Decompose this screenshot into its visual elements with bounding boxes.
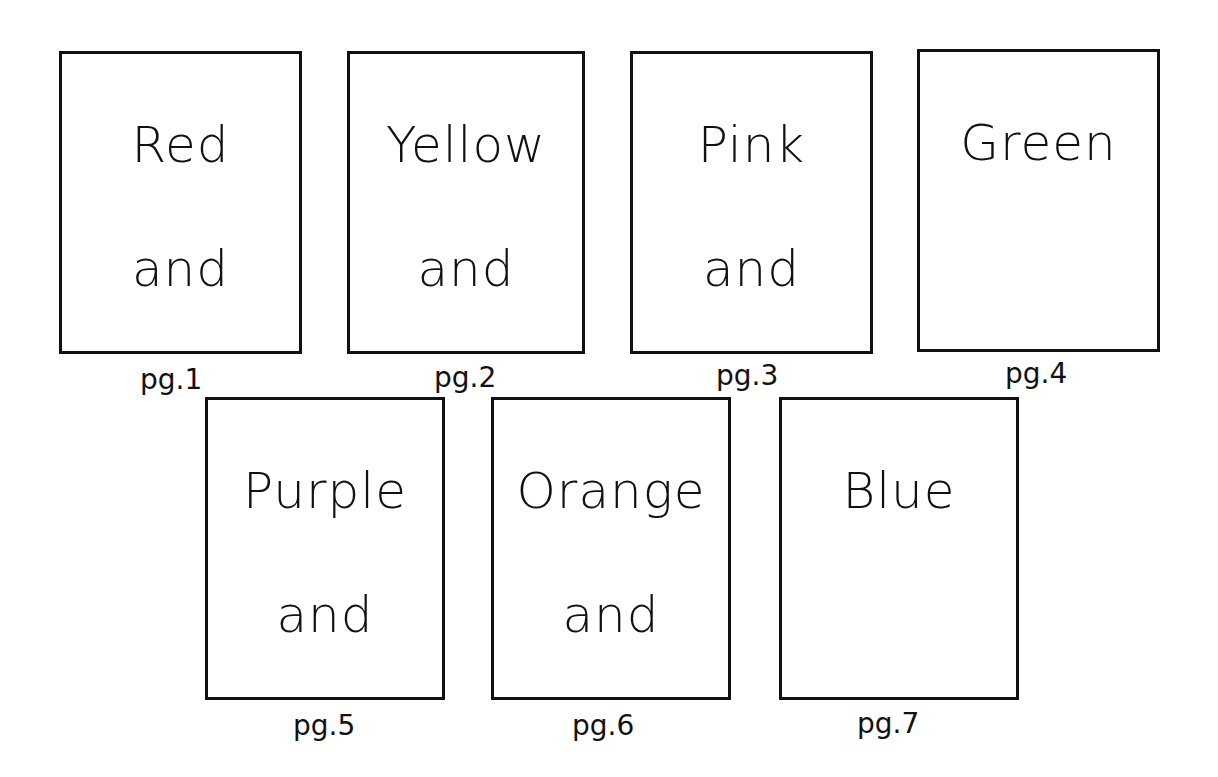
page-word-primary: Orange (494, 466, 728, 516)
page-number-label: pg.2 (434, 364, 496, 392)
page-word-secondary: and (633, 244, 870, 294)
page-word-primary: Red (62, 120, 299, 170)
page-word-primary: Blue (782, 466, 1016, 516)
page-number-label: pg.6 (572, 712, 634, 740)
page-word-primary: Pink (633, 120, 870, 170)
page-card-6: Orange and (491, 397, 731, 700)
page-card-5: Purple and (205, 397, 445, 700)
page-card-1: Red and (59, 51, 302, 354)
page-card-4: Green (917, 49, 1160, 352)
page-card-3: Pink and (630, 51, 873, 354)
page-word-secondary: and (350, 244, 582, 294)
page-word-secondary: and (494, 590, 728, 640)
page-word-secondary: and (208, 590, 442, 640)
page-number-label: pg.4 (1005, 360, 1067, 388)
page-word-primary: Yellow (350, 120, 582, 170)
page-word-primary: Green (920, 118, 1157, 168)
page-number-label: pg.1 (140, 366, 202, 394)
page-word-primary: Purple (208, 466, 442, 516)
page-number-label: pg.7 (857, 710, 919, 738)
page-number-label: pg.3 (716, 362, 778, 390)
page-card-7: Blue (779, 397, 1019, 700)
page-word-secondary: and (62, 244, 299, 294)
page-number-label: pg.5 (293, 712, 355, 740)
page-card-2: Yellow and (347, 51, 585, 354)
